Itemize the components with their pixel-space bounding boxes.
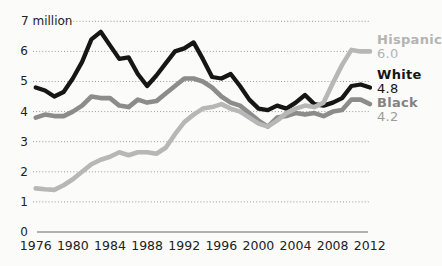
x-axis-label: 2004 bbox=[276, 238, 316, 253]
y-axis-label: 1 bbox=[0, 195, 28, 209]
legend-value-black: 4.2 bbox=[377, 110, 418, 124]
x-axis-label: 2012 bbox=[350, 238, 390, 253]
y-axis-label: 4 bbox=[0, 105, 28, 119]
x-axis-label: 1976 bbox=[16, 238, 56, 253]
series-line-white bbox=[36, 32, 370, 110]
y-axis-label: 2 bbox=[0, 165, 28, 179]
legend-item-white: White 4.8 bbox=[377, 68, 422, 96]
legend-label-white: White bbox=[377, 68, 422, 82]
y-axis-label: 3 bbox=[0, 135, 28, 149]
x-axis-label: 1984 bbox=[90, 238, 130, 253]
x-axis-label: 1980 bbox=[53, 238, 93, 253]
x-axis-label: 1992 bbox=[164, 238, 204, 253]
legend-label-black: Black bbox=[377, 96, 418, 110]
y-axis-label: 6 bbox=[0, 44, 28, 58]
y-axis-label: 0 bbox=[0, 225, 28, 239]
y-axis-label: 5 bbox=[0, 74, 28, 88]
x-axis-label: 1988 bbox=[127, 238, 167, 253]
legend-value-hispanic: 6.0 bbox=[377, 47, 442, 61]
y-axis-label: 7 million bbox=[21, 14, 72, 28]
legend-label-hispanic: Hispanic bbox=[377, 33, 442, 47]
legend-item-black: Black 4.2 bbox=[377, 96, 418, 124]
legend-item-hispanic: Hispanic 6.0 bbox=[377, 33, 442, 61]
legend-value-white: 4.8 bbox=[377, 82, 422, 96]
x-axis-label: 1996 bbox=[201, 238, 241, 253]
x-axis-label: 2000 bbox=[238, 238, 278, 253]
series-line-hispanic bbox=[36, 50, 370, 190]
x-axis-label: 2008 bbox=[313, 238, 353, 253]
